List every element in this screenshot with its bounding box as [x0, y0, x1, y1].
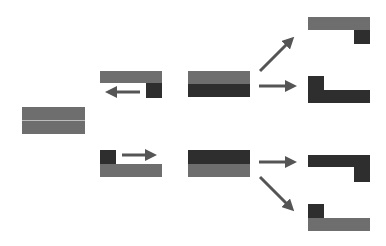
- arrow-up-right-icon: [260, 41, 290, 71]
- arrows-layer: [0, 0, 386, 246]
- arrow-down-right-icon: [260, 177, 290, 207]
